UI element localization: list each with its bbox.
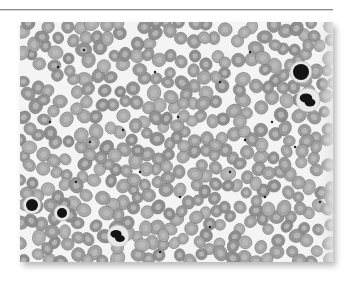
rbc — [20, 76, 29, 87]
blood-smear-image — [20, 22, 333, 262]
platelet — [159, 251, 161, 253]
header-rule-shadow — [0, 10, 333, 11]
rbc — [37, 94, 50, 105]
rbc — [296, 144, 309, 158]
edge-fade — [319, 22, 333, 262]
leukocyte — [54, 205, 70, 221]
platelet — [219, 81, 221, 83]
rbc — [251, 195, 262, 207]
platelet — [179, 196, 181, 198]
platelet — [57, 66, 59, 68]
platelet — [294, 146, 296, 148]
platelet — [244, 139, 246, 141]
rbc — [131, 144, 144, 156]
rbc — [189, 50, 201, 63]
platelet — [154, 71, 156, 73]
rbc — [105, 122, 116, 135]
platelet — [229, 171, 231, 173]
platelet — [264, 196, 266, 198]
leukocyte — [107, 225, 129, 247]
rbc — [129, 118, 142, 132]
leukocyte — [296, 88, 320, 112]
rbc — [139, 221, 152, 236]
platelet — [209, 226, 211, 228]
platelet — [177, 116, 179, 118]
platelet — [49, 121, 51, 123]
platelet — [75, 181, 77, 183]
platelet — [89, 141, 91, 143]
leukocyte — [23, 196, 41, 214]
rbc — [196, 248, 208, 260]
platelet — [139, 171, 141, 173]
rbc — [134, 238, 150, 251]
platelet — [83, 49, 85, 51]
micrograph-frame — [20, 22, 333, 262]
leukocyte — [290, 61, 312, 83]
platelet — [249, 51, 251, 53]
platelet — [122, 129, 124, 131]
rbc — [44, 126, 57, 140]
platelet — [271, 121, 273, 123]
